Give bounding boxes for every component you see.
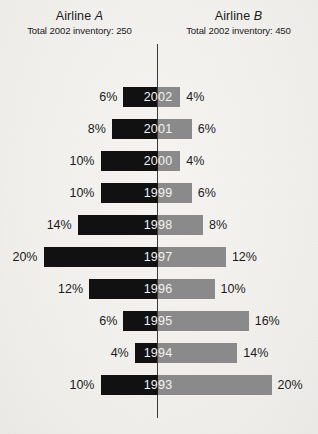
chart-row: 20%12%1997 (0, 242, 318, 274)
chart-row: 4%14%1994 (0, 338, 318, 370)
chart-rows: 6%4%20028%6%200110%4%200010%6%199914%8%1… (0, 82, 318, 402)
airline-a-title-prefix: Airline (56, 9, 95, 23)
percent-label-right: 4% (186, 87, 204, 107)
chart-row: 10%20%1993 (0, 370, 318, 402)
percent-label-right: 14% (243, 343, 268, 363)
year-label: 1997 (133, 247, 183, 267)
year-label: 1993 (133, 375, 183, 395)
chart-row: 6%4%2002 (0, 82, 318, 114)
percent-label-right: 4% (186, 151, 204, 171)
airline-a-title: Airline A (0, 9, 159, 24)
airline-a-subtitle: Total 2002 inventory: 250 (0, 24, 159, 37)
header-column-left: Airline A Total 2002 inventory: 250 (0, 9, 159, 37)
airline-b-title: Airline B (159, 9, 318, 24)
percent-label-right: 20% (278, 375, 303, 395)
percent-label-left: 4% (111, 343, 129, 363)
chart-header: Airline A Total 2002 inventory: 250 Airl… (0, 9, 318, 37)
year-label: 1994 (133, 343, 183, 363)
percent-label-right: 10% (221, 279, 246, 299)
percent-label-right: 6% (198, 183, 216, 203)
percent-label-left: 20% (12, 247, 37, 267)
chart-row: 8%6%2001 (0, 114, 318, 146)
percent-label-right: 16% (255, 311, 280, 331)
chart-row: 10%6%1999 (0, 178, 318, 210)
percent-label-left: 6% (99, 311, 117, 331)
year-label: 1998 (133, 215, 183, 235)
airline-b-title-prefix: Airline (215, 9, 254, 23)
percent-label-right: 8% (209, 215, 227, 235)
butterfly-chart: Airline A Total 2002 inventory: 250 Airl… (0, 0, 318, 434)
year-label: 2000 (133, 151, 183, 171)
percent-label-left: 12% (58, 279, 83, 299)
chart-row: 10%4%2000 (0, 146, 318, 178)
airline-a-title-letter: A (95, 9, 103, 23)
chart-row: 14%8%1998 (0, 210, 318, 242)
year-label: 2002 (133, 87, 183, 107)
year-label: 2001 (133, 119, 183, 139)
percent-label-right: 6% (198, 119, 216, 139)
airline-b-title-letter: B (254, 9, 262, 23)
year-label: 1999 (133, 183, 183, 203)
chart-row: 12%10%1996 (0, 274, 318, 306)
header-column-right: Airline B Total 2002 inventory: 450 (159, 9, 318, 37)
year-label: 1996 (133, 279, 183, 299)
percent-label-left: 8% (88, 119, 106, 139)
year-label: 1995 (133, 311, 183, 331)
percent-label-left: 10% (69, 183, 94, 203)
percent-label-right: 12% (232, 247, 257, 267)
percent-label-left: 14% (47, 215, 72, 235)
percent-label-left: 6% (99, 87, 117, 107)
airline-b-subtitle: Total 2002 inventory: 450 (159, 24, 318, 37)
chart-row: 6%16%1995 (0, 306, 318, 338)
percent-label-left: 10% (69, 375, 94, 395)
percent-label-left: 10% (69, 151, 94, 171)
